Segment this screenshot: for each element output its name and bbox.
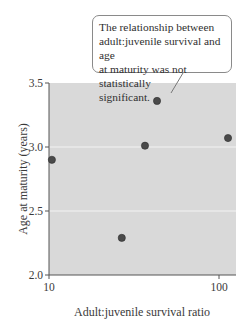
x-tick-label: 10 (43, 281, 55, 293)
y-tick-label: 2.5 (29, 205, 44, 217)
callout-line: adult:juvenile survival and age (99, 34, 225, 62)
plot-area (49, 83, 236, 275)
y-tick-label: 3.0 (29, 141, 44, 153)
x-axis-ticks: 10100 (43, 275, 228, 293)
y-axis-ticks: 2.02.53.03.5 (29, 77, 49, 281)
callout-line: at maturity was not statistically (99, 62, 225, 90)
data-point (141, 142, 148, 149)
x-tick-label: 100 (210, 281, 228, 293)
y-tick-label: 2.0 (29, 269, 44, 281)
callout-line: significant. (99, 90, 225, 104)
data-point (48, 156, 55, 163)
x-axis-label: Adult:juvenile survival ratio (74, 305, 210, 320)
data-point (118, 234, 125, 241)
y-tick-label: 3.5 (29, 77, 44, 89)
data-point (224, 134, 231, 141)
annotation-callout: The relationship between adult:juvenile … (92, 15, 232, 73)
y-axis-label: Age at maturity (years) (16, 123, 31, 235)
callout-line: The relationship between (99, 20, 225, 34)
